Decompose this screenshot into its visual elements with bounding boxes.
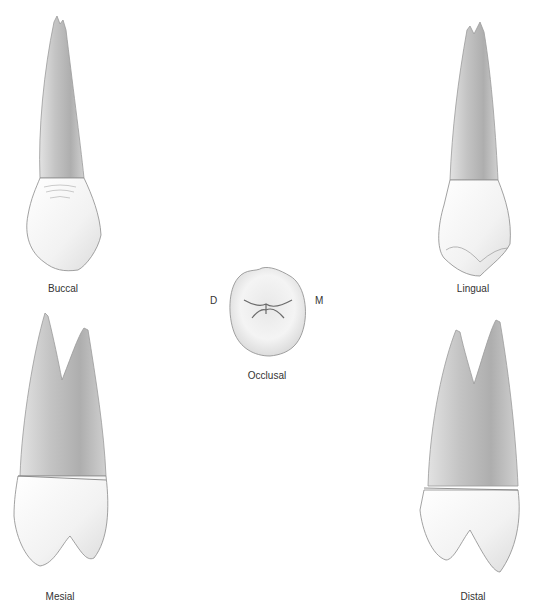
distal-marker: D (210, 295, 217, 306)
distal-view: Distal (400, 300, 534, 612)
mesial-view: Mesial (0, 300, 150, 612)
buccal-label: Buccal (48, 283, 78, 294)
lingual-label: Lingual (457, 283, 489, 294)
lingual-tooth-illustration (400, 0, 534, 300)
lingual-view: Lingual (400, 0, 534, 300)
mesial-tooth-illustration (0, 300, 150, 612)
distal-tooth-illustration (400, 300, 534, 612)
distal-label: Distal (460, 591, 485, 602)
occlusal-label: Occlusal (248, 370, 286, 381)
occlusal-view: D M Occlusal (200, 260, 340, 390)
mesial-label: Mesial (46, 591, 75, 602)
buccal-view: Buccal (0, 0, 150, 300)
buccal-tooth-illustration (0, 0, 150, 300)
mesial-marker: M (315, 295, 323, 306)
